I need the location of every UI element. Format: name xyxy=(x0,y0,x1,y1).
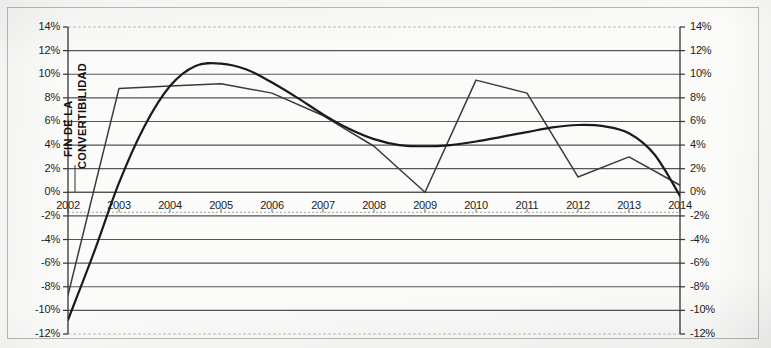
x-axis-label: 2003 xyxy=(97,199,141,211)
y-axis-label-left: -10% xyxy=(20,303,60,315)
x-axis-label: 2010 xyxy=(454,199,498,211)
x-axis-label: 2013 xyxy=(607,199,651,211)
x-axis-label: 2005 xyxy=(199,199,243,211)
y-axis-label-left: -6% xyxy=(20,256,60,268)
annotation-fin-de-la: FIN DE LA xyxy=(62,100,74,156)
x-axis-label: 2009 xyxy=(403,199,447,211)
axis-lines-group xyxy=(63,27,685,334)
y-axis-label-left: 4% xyxy=(20,138,60,150)
y-axis-label-right: -8% xyxy=(690,280,730,292)
y-axis-label-right: 12% xyxy=(690,44,730,56)
x-axis-label: 2002 xyxy=(46,199,90,211)
y-axis-label-right: 10% xyxy=(690,67,730,79)
chart-plot-area xyxy=(0,0,771,348)
y-axis-label-left: 10% xyxy=(20,67,60,79)
y-axis-label-right: 2% xyxy=(690,162,730,174)
y-axis-label-right: -10% xyxy=(690,303,730,315)
x-axis-label: 2012 xyxy=(556,199,600,211)
x-axis-label: 2007 xyxy=(301,199,345,211)
y-axis-label-left: 14% xyxy=(20,20,60,32)
y-axis-label-right: -6% xyxy=(690,256,730,268)
y-axis-label-right: 8% xyxy=(690,91,730,103)
y-axis-label-right: 0% xyxy=(690,185,730,197)
y-axis-label-left: 6% xyxy=(20,114,60,126)
annotation-convertibilidad: CONVERTIBILIDAD xyxy=(76,63,88,169)
x-axis-label: 2011 xyxy=(505,199,549,211)
y-axis-label-right: 6% xyxy=(690,114,730,126)
x-axis-label: 2004 xyxy=(148,199,192,211)
y-axis-label-right: -12% xyxy=(690,327,730,339)
gridlines-group xyxy=(68,27,680,334)
data-series-group xyxy=(68,63,680,320)
x-axis-label: 2008 xyxy=(352,199,396,211)
y-axis-label-left: -4% xyxy=(20,233,60,245)
y-axis-label-left: -12% xyxy=(20,327,60,339)
y-axis-label-left: 0% xyxy=(20,185,60,197)
y-axis-label-right: -4% xyxy=(690,233,730,245)
series-line-tendencia-polinomica xyxy=(68,63,680,320)
y-axis-label-left: 8% xyxy=(20,91,60,103)
y-axis-label-left: -8% xyxy=(20,280,60,292)
x-axis-label: 2014 xyxy=(658,199,702,211)
x-axis-label: 2006 xyxy=(250,199,294,211)
chart-container: 14%12%10%8%6%4%2%0%-2%-4%-6%-8%-10%-12% … xyxy=(0,0,771,348)
y-axis-label-right: 4% xyxy=(690,138,730,150)
y-axis-label-left: 2% xyxy=(20,162,60,174)
y-axis-label-left: 12% xyxy=(20,44,60,56)
y-axis-label-right: 14% xyxy=(690,20,730,32)
